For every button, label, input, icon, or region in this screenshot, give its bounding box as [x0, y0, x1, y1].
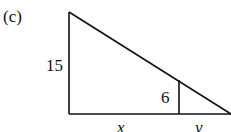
hypotenuse: [69, 12, 231, 114]
label-15: 15: [46, 56, 63, 75]
figure-label: (c): [3, 7, 22, 26]
label-6: 6: [161, 88, 170, 107]
label-y: y: [193, 118, 203, 132]
label-x: x: [116, 118, 125, 132]
similar-triangles-diagram: (c) 15 6 x y: [0, 0, 231, 132]
